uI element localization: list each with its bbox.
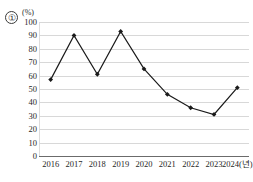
- data-point-marker: [188, 105, 193, 110]
- series-markers-group: [48, 29, 239, 117]
- data-point-marker: [48, 77, 53, 82]
- series-line: [51, 31, 238, 114]
- chart-figure: ① (%) 1009080706050403020100 20162017201…: [0, 0, 253, 182]
- data-series-svg: [0, 0, 253, 182]
